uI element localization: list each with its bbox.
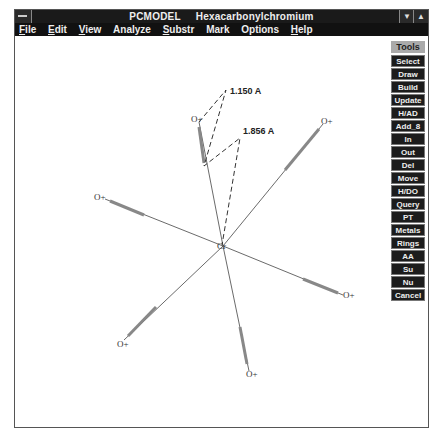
oxygen-atom-label[interactable]: O+	[94, 192, 106, 202]
tool-nu-button[interactable]: Nu	[391, 276, 425, 288]
tool-cancel-button[interactable]: Cancel	[391, 289, 425, 301]
tools-panel: Tools Select Draw Build Update H/AD Add_…	[391, 41, 425, 302]
molecule-drawing	[0, 0, 439, 445]
tool-move-button[interactable]: Move	[391, 172, 425, 184]
tools-header: Tools	[391, 41, 425, 53]
tool-del-button[interactable]: Del	[391, 159, 425, 171]
tool-select-button[interactable]: Select	[391, 55, 425, 67]
tool-query-button[interactable]: Query	[391, 198, 425, 210]
oxygen-atom-label[interactable]: O+	[246, 369, 258, 379]
tool-in-button[interactable]: In	[391, 133, 425, 145]
tool-pt-button[interactable]: PT	[391, 211, 425, 223]
tool-h-do-button[interactable]: H/DO	[391, 185, 425, 197]
oxygen-atom-label[interactable]: O+	[191, 114, 203, 124]
tool-rings-button[interactable]: Rings	[391, 237, 425, 249]
tool-metals-button[interactable]: Metals	[391, 224, 425, 236]
tool-build-button[interactable]: Build	[391, 81, 425, 93]
tool-out-button[interactable]: Out	[391, 146, 425, 158]
tool-su-button[interactable]: Su	[391, 263, 425, 275]
tool-update-button[interactable]: Update	[391, 94, 425, 106]
chromium-atom-label[interactable]: Cr	[217, 241, 226, 251]
tool-h-ad-button[interactable]: H/AD	[391, 107, 425, 119]
oxygen-atom-label[interactable]: O+	[117, 339, 129, 349]
molecule-canvas[interactable]: O+ O+ O+ O+ O+ O+ Cr 1.150 A 1.856 A	[0, 0, 439, 445]
tool-aa-button[interactable]: AA	[391, 250, 425, 262]
oxygen-atom-label[interactable]: O+	[321, 116, 333, 126]
tool-draw-button[interactable]: Draw	[391, 68, 425, 80]
oxygen-atom-label[interactable]: O+	[343, 290, 355, 300]
distance-label: 1.150 A	[230, 86, 261, 96]
tool-add8-button[interactable]: Add_8	[391, 120, 425, 132]
distance-label: 1.856 A	[243, 126, 274, 136]
